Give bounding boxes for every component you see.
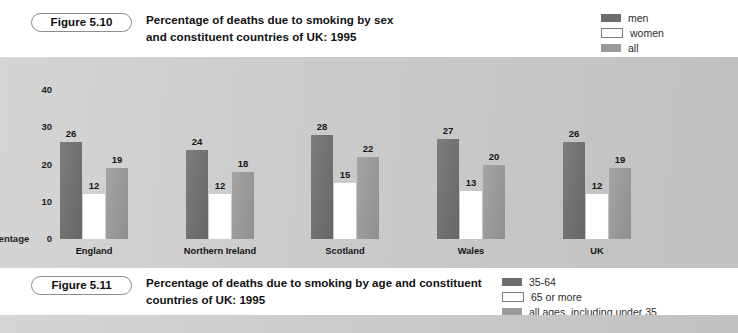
bar-uk-all [609, 168, 631, 239]
bar-value-england-all: 19 [106, 155, 128, 165]
bar-value-northern-ireland-all: 18 [232, 159, 254, 169]
bar-value-uk-all: 19 [609, 155, 631, 165]
legend-swatch-65-or-more [502, 292, 524, 302]
bar-value-uk-men: 26 [563, 129, 585, 139]
figure-511-number-badge: Figure 5.11 [31, 276, 132, 295]
figure-511-title: Percentage of deaths due to smoking by a… [146, 274, 526, 308]
bar-wales-all [483, 165, 505, 239]
figure-511-title-line1: Percentage of deaths due to smoking by a… [146, 276, 392, 289]
bar-england-women [83, 194, 105, 239]
bar-value-wales-women: 13 [460, 178, 482, 188]
y-axis-tick-40: 40 [24, 85, 52, 95]
legend-label-women: women [630, 27, 664, 39]
bar-value-england-men: 26 [60, 129, 82, 139]
legend-label-men: men [628, 12, 648, 24]
bar-england-all [106, 168, 128, 239]
x-axis-label-northern-ireland: Northern Ireland [148, 246, 292, 257]
bar-uk-women [586, 194, 608, 239]
legend-swatch-35-64 [502, 278, 522, 286]
bar-uk-men [563, 142, 585, 239]
plot-area: 010203040Percentage261219England241218No… [0, 57, 738, 268]
figure-510-title-line1: Percentage of deaths due to smoking by s… [146, 13, 394, 26]
bar-northern-ireland-men [186, 150, 208, 239]
legend-label-65-or-more: 65 or more [531, 291, 582, 303]
figure-511-legend: 35-64 65 or more all ages, including und… [502, 275, 732, 320]
legend-label-all: all [628, 42, 639, 54]
y-axis-tick-30: 30 [24, 122, 52, 132]
figure-510-title-line2: and constituent countries of UK: 1995 [146, 28, 546, 45]
bar-value-wales-all: 20 [483, 152, 505, 162]
figure-511-header: Figure 5.11 Percentage of deaths due to … [0, 268, 738, 315]
bar-value-northern-ireland-men: 24 [186, 137, 208, 147]
y-axis-title: Percentage [0, 234, 24, 244]
bar-value-scotland-women: 15 [334, 170, 356, 180]
figure-510-title: Percentage of deaths due to smoking by s… [146, 11, 546, 45]
bar-value-england-women: 12 [83, 181, 105, 191]
x-axis-label-scotland: Scotland [273, 246, 417, 257]
bar-northern-ireland-women [209, 194, 231, 239]
y-axis-tick-10: 10 [24, 197, 52, 207]
next-chart-strip [0, 315, 738, 333]
bar-value-scotland-men: 28 [311, 122, 333, 132]
y-axis-tick-20: 20 [24, 160, 52, 170]
bar-northern-ireland-all [232, 172, 254, 239]
legend-item-men: men [601, 11, 731, 24]
bar-scotland-men [311, 135, 333, 239]
figure-510-number-badge: Figure 5.10 [31, 13, 132, 32]
bar-scotland-all [357, 157, 379, 239]
legend-item-35-64: 35-64 [502, 275, 732, 288]
bar-value-uk-women: 12 [586, 181, 608, 191]
bar-wales-men [437, 139, 459, 239]
legend-item-65-or-more: 65 or more [502, 290, 732, 303]
bar-value-northern-ireland-women: 12 [209, 181, 231, 191]
legend-item-all: all [601, 41, 731, 54]
bar-scotland-women [334, 183, 356, 239]
x-axis-label-uk: UK [525, 246, 669, 257]
x-axis-label-wales: Wales [399, 246, 543, 257]
legend-swatch-women [601, 28, 623, 38]
legend-item-women: women [601, 26, 731, 39]
x-axis-label-england: England [22, 246, 166, 257]
bar-england-men [60, 142, 82, 239]
bar-value-scotland-all: 22 [357, 144, 379, 154]
figure-510-header: Figure 5.10 Percentage of deaths due to … [0, 0, 738, 57]
legend-swatch-all [601, 44, 621, 52]
bar-wales-women [460, 191, 482, 239]
legend-swatch-men [601, 14, 621, 22]
figure-510-legend: men women all [601, 11, 731, 56]
bar-chart-figure-510: 010203040Percentage261219England241218No… [0, 57, 738, 268]
legend-label-35-64: 35-64 [529, 276, 556, 288]
bar-value-wales-men: 27 [437, 126, 459, 136]
